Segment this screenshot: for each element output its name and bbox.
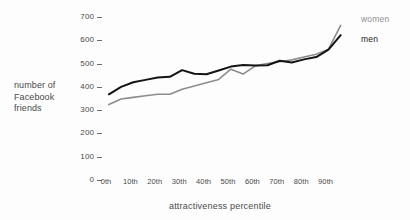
series-line-men	[109, 35, 341, 94]
facebook-friends-line-chart: number of Facebook friends 7006005004003…	[0, 0, 410, 220]
series-line-women	[109, 25, 341, 104]
x-axis-title: attractiveness percentile	[105, 201, 335, 211]
plot-area	[0, 0, 410, 220]
legend-item-men: men	[361, 34, 378, 44]
legend-item-women: women	[361, 14, 389, 24]
